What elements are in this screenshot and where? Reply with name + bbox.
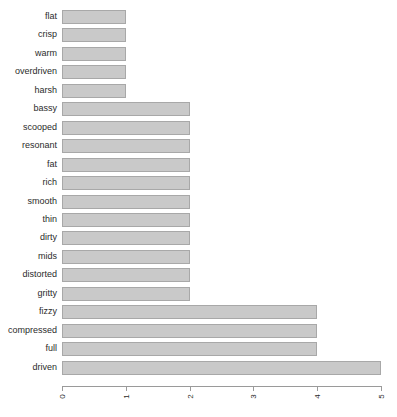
bar-category-label: compressed bbox=[0, 323, 62, 338]
bar-category-label: warm bbox=[0, 46, 62, 61]
bar-category-label: overdriven bbox=[0, 64, 62, 79]
bar bbox=[62, 47, 126, 61]
horizontal-bar-chart: flatcrispwarmoverdrivenharshbassyscooped… bbox=[0, 0, 397, 417]
bar-row: smooth bbox=[0, 195, 397, 209]
bar-category-label: full bbox=[0, 341, 62, 356]
bar-row: overdriven bbox=[0, 65, 397, 79]
bar-category-label: dirty bbox=[0, 230, 62, 245]
bar-row: fizzy bbox=[0, 305, 397, 319]
x-axis-line bbox=[62, 386, 381, 387]
bar-category-label: mids bbox=[0, 249, 62, 264]
bar-category-label: resonant bbox=[0, 138, 62, 153]
bar-category-label: scooped bbox=[0, 120, 62, 135]
bar bbox=[62, 84, 126, 98]
bar-row: bassy bbox=[0, 102, 397, 116]
x-axis-tick-label: 0 bbox=[58, 389, 67, 405]
bar-row: warm bbox=[0, 47, 397, 61]
bar bbox=[62, 158, 190, 172]
bar-row: resonant bbox=[0, 139, 397, 153]
bar-category-label: bassy bbox=[0, 101, 62, 116]
bar bbox=[62, 250, 190, 264]
bar-row: full bbox=[0, 342, 397, 356]
bar bbox=[62, 305, 317, 319]
bar bbox=[62, 139, 190, 153]
bar-row: mids bbox=[0, 250, 397, 264]
bar-row: flat bbox=[0, 10, 397, 24]
bar-category-label: distorted bbox=[0, 267, 62, 282]
bar-category-label: harsh bbox=[0, 83, 62, 98]
bar bbox=[62, 361, 381, 375]
bar bbox=[62, 213, 190, 227]
plot-area: flatcrispwarmoverdrivenharshbassyscooped… bbox=[0, 0, 397, 386]
bar-row: harsh bbox=[0, 84, 397, 98]
bar-row: scooped bbox=[0, 121, 397, 135]
x-axis-tick-label: 5 bbox=[377, 389, 386, 405]
bar bbox=[62, 176, 190, 190]
x-axis-tick-label: 4 bbox=[313, 389, 322, 405]
bar bbox=[62, 65, 126, 79]
bar-row: distorted bbox=[0, 268, 397, 282]
bar-row: driven bbox=[0, 361, 397, 375]
bar bbox=[62, 10, 126, 24]
bar-row: rich bbox=[0, 176, 397, 190]
bar-category-label: fizzy bbox=[0, 304, 62, 319]
bar-category-label: gritty bbox=[0, 286, 62, 301]
bar bbox=[62, 342, 317, 356]
clipped-caption-strip bbox=[0, 408, 397, 417]
bar-category-label: rich bbox=[0, 175, 62, 190]
bar-category-label: driven bbox=[0, 360, 62, 375]
bar bbox=[62, 102, 190, 116]
x-axis-tick-label: 1 bbox=[121, 389, 130, 405]
bar bbox=[62, 268, 190, 282]
bar-category-label: thin bbox=[0, 212, 62, 227]
bar-row: gritty bbox=[0, 287, 397, 301]
bar-row: compressed bbox=[0, 324, 397, 338]
bar bbox=[62, 121, 190, 135]
bar-category-label: crisp bbox=[0, 27, 62, 42]
bar-category-label: flat bbox=[0, 9, 62, 24]
bar-row: dirty bbox=[0, 231, 397, 245]
bar bbox=[62, 195, 190, 209]
bar bbox=[62, 324, 317, 338]
bar bbox=[62, 28, 126, 42]
bar-row: crisp bbox=[0, 28, 397, 42]
bar-row: thin bbox=[0, 213, 397, 227]
bar-row: fat bbox=[0, 158, 397, 172]
bar-category-label: smooth bbox=[0, 194, 62, 209]
bar bbox=[62, 287, 190, 301]
bar bbox=[62, 231, 190, 245]
x-axis-tick-label: 2 bbox=[185, 389, 194, 405]
bar-category-label: fat bbox=[0, 157, 62, 172]
x-axis-tick-label: 3 bbox=[249, 389, 258, 405]
